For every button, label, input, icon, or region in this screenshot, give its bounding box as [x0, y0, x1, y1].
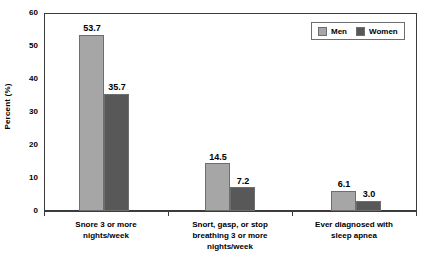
x-category-label-snort-line2: breathing 3 or more	[168, 230, 292, 241]
y-tick-label-40: 40	[0, 74, 44, 84]
bar-value-men-snore: 53.7	[72, 23, 112, 34]
bar-women-snort[interactable]	[230, 187, 255, 211]
bar-women-diagnosed[interactable]	[356, 201, 381, 211]
x-tick-mark-left	[44, 211, 45, 216]
y-tick-label-60: 60	[0, 8, 44, 18]
y-tick-label-0: 0	[0, 206, 44, 216]
y-tick-label-20: 20	[0, 140, 44, 150]
legend-entry-women[interactable]: Women	[356, 27, 398, 36]
x-category-label-snore-line1: Snore 3 or more	[44, 219, 168, 230]
x-category-label-snore: Snore 3 or more nights/week	[44, 219, 168, 241]
bar-chart-figure: Percent (%) 60 50 40 30 20 10 0 53.7 35.…	[0, 0, 426, 259]
x-tick-mark-right	[416, 211, 417, 216]
legend-swatch-women	[356, 27, 365, 36]
bar-value-men-snort: 14.5	[198, 152, 238, 163]
legend-entry-men[interactable]: Men	[318, 27, 347, 36]
bar-men-snore[interactable]	[79, 35, 104, 211]
bar-group-snort: 14.5 7.2	[205, 14, 255, 211]
y-axis-title-text: Percent (%)	[3, 83, 12, 129]
legend-label-men: Men	[331, 27, 347, 36]
legend-label-women: Women	[369, 27, 398, 36]
x-category-label-diagnosed-line2: sleep apnea	[292, 230, 416, 241]
x-category-label-snort: Snort, gasp, or stop breathing 3 or more…	[168, 219, 292, 252]
bar-group-diagnosed: 6.1 3.0	[331, 14, 381, 211]
y-tick-label-10: 10	[0, 173, 44, 183]
bar-women-snore[interactable]	[104, 94, 129, 211]
bar-value-women-diagnosed: 3.0	[349, 189, 389, 200]
x-category-label-snort-line1: Snort, gasp, or stop	[168, 219, 292, 230]
legend-swatch-men	[318, 27, 327, 36]
legend: Men Women	[311, 22, 405, 40]
bar-value-women-snort: 7.2	[223, 176, 263, 187]
x-tick-mark-1	[168, 211, 169, 216]
bars-layer: 53.7 35.7 14.5 7.2 6.1 3.0	[45, 14, 416, 211]
x-category-label-diagnosed-line1: Ever diagnosed with	[292, 219, 416, 230]
bar-group-snore: 53.7 35.7	[79, 14, 129, 211]
y-tick-label-30: 30	[0, 107, 44, 117]
x-category-label-snore-line2: nights/week	[44, 230, 168, 241]
x-category-label-snort-line3: nights/week	[168, 241, 292, 252]
bar-value-women-snore: 35.7	[97, 82, 137, 93]
bar-men-snort[interactable]	[205, 163, 230, 211]
x-category-label-diagnosed: Ever diagnosed with sleep apnea	[292, 219, 416, 241]
x-tick-mark-2	[292, 211, 293, 216]
y-tick-label-50: 50	[0, 41, 44, 51]
